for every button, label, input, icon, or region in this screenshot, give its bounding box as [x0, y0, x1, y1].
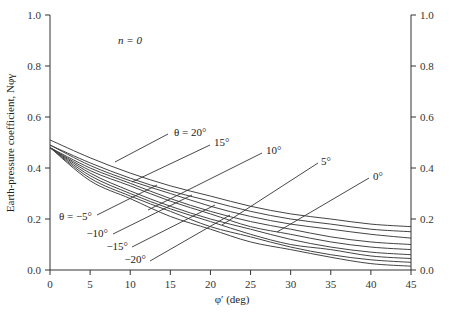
y-tick-label-right: 0.2: [420, 213, 434, 225]
x-tick-label: 20: [205, 278, 217, 290]
y-axis-label: Earth-pressure coefficient, Nφγ: [4, 74, 16, 213]
curve-label: −20°: [124, 253, 146, 265]
y-tick-label-right: 0.4: [420, 162, 434, 174]
y-tick-label-right: 1.0: [420, 9, 434, 21]
leader-line: [277, 178, 369, 232]
y-tick-label: 1.0: [27, 9, 41, 21]
tick-labels: 0.00.00.20.20.40.40.60.60.80.81.01.00510…: [27, 9, 434, 290]
curve-label: 0°: [373, 170, 383, 182]
y-tick-label-right: 0.0: [420, 264, 434, 276]
leader-line: [132, 205, 215, 247]
curve-label: −10°: [86, 227, 108, 239]
curves: [50, 140, 411, 266]
x-tick-label: 5: [87, 278, 93, 290]
curve-label: θ = −5°: [59, 210, 92, 222]
y-tick-label: 0.8: [27, 60, 41, 72]
x-tick-label: 10: [125, 278, 137, 290]
y-tick-label: 0.0: [27, 264, 41, 276]
y-tick-label: 0.4: [27, 162, 41, 174]
x-tick-label: 25: [245, 278, 257, 290]
x-axis-label: φ′ (deg): [215, 293, 250, 306]
y-tick-label: 0.2: [27, 213, 41, 225]
curve-label: −15°: [106, 240, 128, 252]
x-tick-label: 40: [365, 278, 377, 290]
curve: [50, 148, 411, 259]
curve-label: 5°: [321, 155, 331, 167]
x-tick-label: 0: [47, 278, 53, 290]
y-tick-label-right: 0.6: [420, 111, 434, 123]
leader-line: [115, 134, 168, 162]
x-tick-label: 45: [406, 278, 418, 290]
curve-labels: θ = 20°15°10°5°0°θ = −5°−10°−15°−20°: [59, 126, 383, 265]
curve: [50, 140, 411, 227]
leader-line: [150, 215, 230, 261]
x-tick-label: 15: [165, 278, 177, 290]
n-annotation: n = 0: [118, 34, 142, 46]
chart: 0.00.00.20.20.40.40.60.60.80.81.01.00510…: [0, 0, 449, 318]
curve-label: 15°: [214, 136, 229, 148]
x-tick-label: 35: [325, 278, 337, 290]
x-tick-label: 30: [285, 278, 297, 290]
y-tick-label-right: 0.8: [420, 60, 434, 72]
curve-label: θ = 20°: [174, 126, 206, 138]
curve-label: 10°: [266, 144, 281, 156]
y-tick-label: 0.6: [27, 111, 41, 123]
leader-line: [132, 145, 210, 182]
leader-line: [148, 153, 262, 210]
